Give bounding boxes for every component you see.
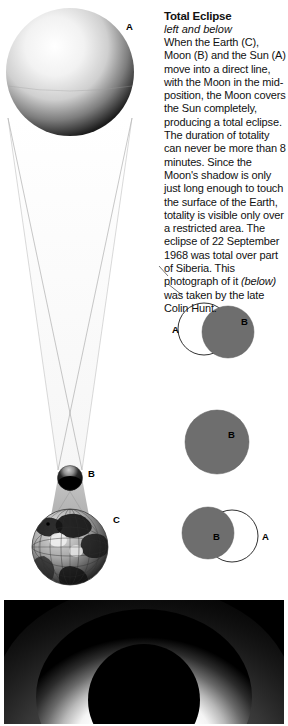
article-body-part1: When the Earth (C), Moon (B) and the Sun… — [164, 36, 286, 287]
phase1-right-label: B — [241, 316, 248, 327]
phase1-left-label: A — [172, 324, 179, 335]
eclipse-photograph-frame — [4, 600, 284, 724]
article-text-block: Total Eclipse left and below When the Ea… — [164, 10, 286, 315]
phase2-center-label: B — [228, 429, 235, 440]
eclipse-photograph — [4, 600, 284, 724]
sun-label: A — [126, 21, 133, 32]
phase-partial-end: B A — [182, 507, 269, 562]
phase3-left-label: B — [213, 531, 220, 542]
light-cone-upper — [8, 118, 132, 470]
article-body-italic: (below) — [241, 275, 276, 287]
sun-body — [6, 8, 134, 136]
eclipse-page: A B — [0, 0, 288, 726]
earth-label: C — [113, 514, 120, 525]
article-kicker: left and below — [164, 23, 286, 36]
phase3-right-label: A — [262, 531, 269, 542]
moon-label: B — [88, 468, 95, 479]
article-body-part2: was taken by the late Colin Hunt. — [164, 289, 264, 314]
article-title: Total Eclipse — [164, 10, 286, 23]
article-body: When the Earth (C), Moon (B) and the Sun… — [164, 36, 286, 315]
phase-totality: B — [185, 410, 249, 474]
earth-body — [30, 509, 108, 592]
